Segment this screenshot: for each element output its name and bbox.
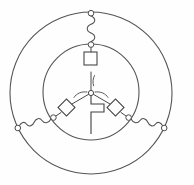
branch-top bbox=[84, 10, 97, 90]
neutral-node bbox=[88, 90, 93, 95]
inner-node-top bbox=[88, 42, 94, 48]
diagram-canvas bbox=[0, 0, 194, 185]
resistor-box-top bbox=[84, 52, 97, 65]
schematic-figure bbox=[0, 0, 194, 185]
resistor-box-left bbox=[58, 99, 75, 116]
resistor-box-right bbox=[107, 99, 124, 116]
lead-box-to-inner-right bbox=[121, 113, 126, 117]
coil-top bbox=[87, 16, 95, 42]
outer-node-right bbox=[161, 125, 167, 131]
inner-node-left bbox=[51, 115, 57, 121]
branch-lower-left bbox=[15, 92, 89, 131]
center-hub-group bbox=[88, 90, 104, 134]
arc-hub-top bbox=[93, 76, 95, 86]
inner-node-right bbox=[126, 115, 132, 121]
lead-box-to-inner-left bbox=[56, 113, 61, 117]
outer-node-left bbox=[15, 125, 21, 131]
coil-left bbox=[20, 119, 52, 126]
outer-node-top bbox=[88, 10, 94, 16]
lead-hub-to-box-left bbox=[72, 94, 89, 104]
coil-right bbox=[131, 119, 163, 126]
lead-hub-to-box-right bbox=[93, 94, 110, 104]
